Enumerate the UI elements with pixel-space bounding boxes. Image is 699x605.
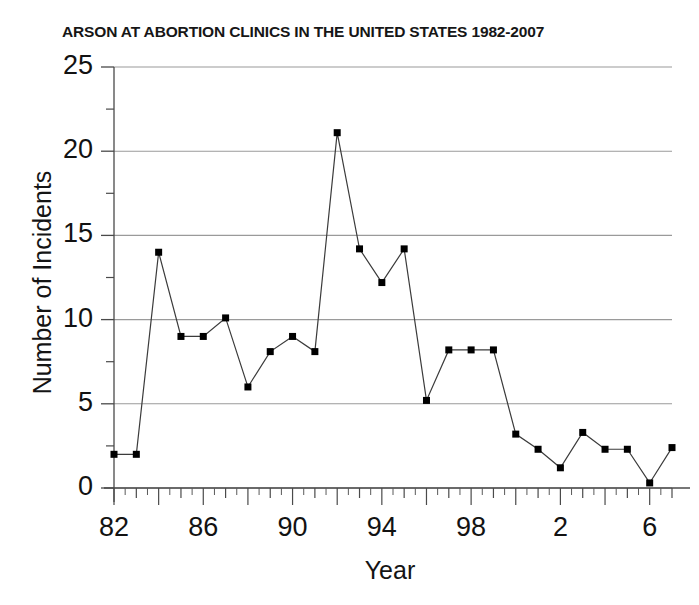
data-point-2002 <box>557 464 564 471</box>
data-point-1988 <box>244 383 251 390</box>
data-point-2001 <box>535 446 542 453</box>
data-point-2003 <box>579 429 586 436</box>
data-point-2005 <box>624 446 631 453</box>
x-axis-ticks <box>114 488 672 505</box>
data-point-2006 <box>646 479 653 486</box>
data-point-1996 <box>423 397 430 404</box>
data-point-1993 <box>356 245 363 252</box>
gridlines <box>114 67 672 488</box>
data-point-1994 <box>378 279 385 286</box>
data-series-markers <box>111 129 676 486</box>
data-point-2000 <box>512 431 519 438</box>
data-point-1999 <box>490 346 497 353</box>
data-point-1995 <box>401 245 408 252</box>
series-polyline <box>114 133 672 483</box>
data-point-1989 <box>267 348 274 355</box>
data-series-line <box>114 133 672 483</box>
data-point-1998 <box>468 346 475 353</box>
data-point-2004 <box>602 446 609 453</box>
data-point-1986 <box>200 333 207 340</box>
data-point-1982 <box>111 451 118 458</box>
data-point-1992 <box>334 129 341 136</box>
data-point-1991 <box>311 348 318 355</box>
data-point-1984 <box>155 249 162 256</box>
data-point-2007 <box>669 444 676 451</box>
chart-container: ARSON AT ABORTION CLINICS IN THE UNITED … <box>0 0 699 605</box>
plot-area <box>0 0 699 605</box>
axis-lines <box>104 67 690 502</box>
data-point-1990 <box>289 333 296 340</box>
data-point-1983 <box>133 451 140 458</box>
data-point-1987 <box>222 314 229 321</box>
y-axis-ticks <box>101 67 114 488</box>
data-point-1985 <box>177 333 184 340</box>
data-point-1997 <box>445 346 452 353</box>
